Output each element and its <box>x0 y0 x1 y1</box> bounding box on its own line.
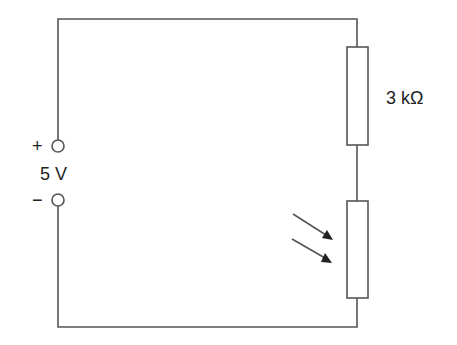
negative-label: − <box>32 190 43 210</box>
wire-top <box>58 19 357 140</box>
positive-terminal <box>52 140 64 152</box>
arrowhead-1-icon <box>322 230 333 240</box>
circuit-diagram: + 5 V − 3 kΩ <box>0 0 457 345</box>
positive-label: + <box>32 136 43 156</box>
arrowhead-2-icon <box>321 253 332 263</box>
negative-terminal <box>52 194 64 206</box>
voltage-label: 5 V <box>40 164 67 184</box>
fixed-resistor <box>347 47 368 145</box>
light-arrow-1 <box>293 214 326 235</box>
ldr-resistor <box>347 201 368 298</box>
light-arrow-2 <box>292 239 325 258</box>
wire-bottom <box>58 206 357 327</box>
resistor-value-label: 3 kΩ <box>386 88 423 108</box>
